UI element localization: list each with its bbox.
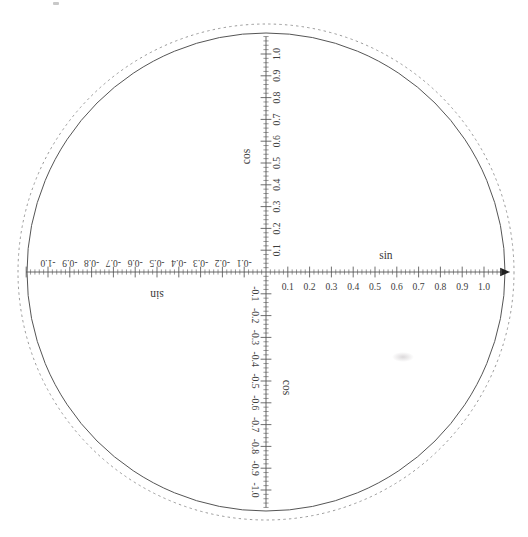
y-axis-tick-label-positive: 0.3	[271, 200, 282, 212]
axis-label-cos-top: cos	[240, 148, 252, 164]
x-axis-tick-label-positive: 0.6	[391, 281, 403, 292]
x-axis-tick-label-positive: 0.3	[325, 281, 337, 292]
y-axis-tick-label-positive: 0.1	[271, 244, 282, 256]
x-axis-tick-label-negative: -0.1	[236, 258, 251, 269]
y-axis-tick-label-negative: -0.8	[250, 439, 261, 454]
x-axis-tick-label-positive: 0.5	[369, 281, 381, 292]
axis-label-cos-bottom: cos	[281, 380, 293, 396]
y-axis-tick-label-positive: 0.6	[271, 135, 282, 147]
y-axis-tick-label-positive: 0.8	[271, 91, 282, 103]
x-axis-tick-label-negative: -0.6	[127, 258, 142, 269]
x-axis-tick-label-negative: -0.8	[84, 258, 99, 269]
y-axis-tick-label-positive: 0.2	[271, 222, 282, 234]
x-axis-tick-label-positive: 0.9	[456, 281, 468, 292]
x-axis-tick-label-negative: -1.0	[40, 258, 55, 269]
x-axis-tick-label-negative: -0.3	[193, 258, 208, 269]
x-axis-tick-label-negative: -0.4	[171, 258, 186, 269]
y-axis-tick-label-positive: 0.9	[271, 70, 282, 82]
x-axis-tick-label-negative: -0.7	[106, 258, 121, 269]
y-axis-tick-label-negative: -0.2	[250, 308, 261, 323]
y-axis-tick-label-negative: -0.3	[250, 330, 261, 345]
y-axis-tick-label-negative: -0.4	[250, 352, 261, 367]
figure-canvas: 0.10.20.30.40.50.60.70.80.91.0-0.1-0.2-0…	[0, 0, 528, 537]
scan-artifact-right	[392, 352, 414, 362]
x-axis-tick-label-negative: -0.9	[62, 258, 77, 269]
x-axis-tick-label-positive: 0.1	[282, 281, 294, 292]
unit-circle-diagram: 0.10.20.30.40.50.60.70.80.91.0-0.1-0.2-0…	[0, 0, 528, 537]
x-axis-tick-label-positive: 0.4	[347, 281, 359, 292]
y-axis-tick-label-negative: -1.0	[250, 482, 261, 497]
x-axis-tick-label-positive: 1.0	[478, 281, 490, 292]
axis-label-sin-right: sin	[379, 249, 393, 261]
x-axis-tick-label-negative: -0.5	[149, 258, 164, 269]
y-axis-tick-label-negative: -0.6	[250, 395, 261, 410]
y-axis-tick-label-positive: 0.7	[271, 113, 282, 125]
axis-label-sin-left: sin	[150, 289, 164, 301]
y-axis-tick-label-negative: -0.1	[250, 286, 261, 301]
x-axis-tick-label-positive: 0.7	[413, 281, 425, 292]
x-axis-tick-label-positive: 0.8	[434, 281, 446, 292]
scan-artifact-top	[53, 2, 59, 5]
y-axis-tick-label-positive: 0.5	[271, 157, 282, 169]
x-axis-tick-label-positive: 0.2	[304, 281, 316, 292]
y-axis-tick-label-positive: 1.0	[271, 48, 282, 60]
x-axis-tick-label-negative: -0.2	[215, 258, 230, 269]
y-axis-tick-label-positive: 0.4	[271, 179, 282, 191]
y-axis-tick-label-negative: -0.9	[250, 461, 261, 476]
y-axis-tick-label-negative: -0.5	[250, 373, 261, 388]
y-axis-tick-label-negative: -0.7	[250, 417, 261, 432]
